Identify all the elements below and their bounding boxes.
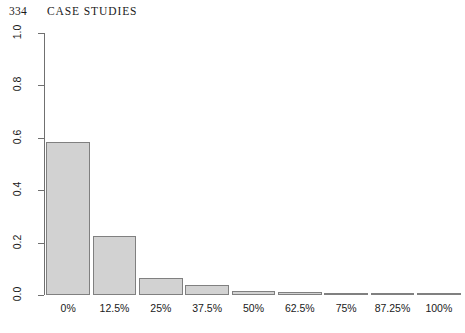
y-axis-tick-label: 0.4 — [11, 172, 23, 206]
plot-area — [45, 33, 462, 295]
x-axis-tick-label: 87.25% — [369, 302, 415, 314]
y-axis-tick-label-holder: 0.2 — [0, 236, 34, 250]
y-axis-tick-mark — [38, 243, 44, 244]
y-axis-tick-mark — [38, 85, 44, 86]
bar — [93, 236, 137, 295]
bar — [324, 293, 368, 295]
y-axis-tick-label: 0.2 — [11, 225, 23, 259]
bar — [417, 293, 461, 295]
y-axis-tick-label-holder: 0.4 — [0, 183, 34, 197]
y-axis-tick-label: 1.0 — [11, 15, 23, 49]
x-axis-tick-label: 37.5% — [184, 302, 230, 314]
y-axis-tick-label-holder: 0.0 — [0, 288, 34, 302]
y-axis-tick-label: 0.6 — [11, 120, 23, 154]
y-axis-tick-label: 0.0 — [11, 277, 23, 311]
bar — [139, 278, 183, 295]
page-header: 334 CASE STUDIES — [0, 0, 465, 26]
bar — [185, 285, 229, 295]
y-axis-tick-mark — [38, 138, 44, 139]
bar — [371, 293, 415, 295]
x-axis-tick-label: 50% — [230, 302, 276, 314]
bar-chart: 0.00.20.40.60.81.0 0%12.5%25%37.5%50%62.… — [0, 26, 465, 333]
x-axis-tick-label: 0% — [45, 302, 91, 314]
y-axis-tick-label-holder: 0.6 — [0, 131, 34, 145]
running-head: CASE STUDIES — [47, 5, 137, 17]
bar — [46, 142, 90, 295]
x-axis-tick-label: 25% — [138, 302, 184, 314]
y-axis-tick-label: 0.8 — [11, 67, 23, 101]
y-axis-tick-label-holder: 1.0 — [0, 26, 34, 40]
x-axis-tick-label: 75% — [323, 302, 369, 314]
y-axis-tick-label-holder: 0.8 — [0, 78, 34, 92]
bar — [232, 291, 276, 295]
x-axis-tick-label: 100% — [416, 302, 462, 314]
x-axis-tick-label: 62.5% — [277, 302, 323, 314]
x-axis-tick-label: 12.5% — [91, 302, 137, 314]
y-axis-tick-mark — [38, 33, 44, 34]
y-axis-tick-mark — [38, 190, 44, 191]
y-axis-tick-mark — [38, 295, 44, 296]
bar — [278, 292, 322, 295]
